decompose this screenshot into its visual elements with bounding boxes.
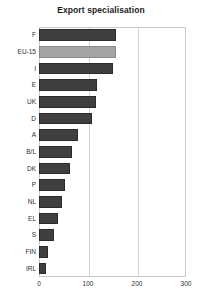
category-label-p: P bbox=[0, 181, 36, 189]
category-axis-labels: FEU-15IEUKDAB/LDKPNLELSFINIRL bbox=[0, 27, 202, 277]
x-tick-label-0: 0 bbox=[24, 280, 54, 288]
value-axis-labels: 0100200300 bbox=[0, 280, 202, 296]
category-label-a: A bbox=[0, 131, 36, 139]
category-label-i: I bbox=[0, 65, 36, 73]
category-label-b-l: B/L bbox=[0, 148, 36, 156]
category-label-s: S bbox=[0, 231, 36, 239]
category-label-d: D bbox=[0, 115, 36, 123]
chart-title: Export specialisation bbox=[0, 5, 202, 15]
category-label-el: EL bbox=[0, 215, 36, 223]
category-label-f: F bbox=[0, 31, 36, 39]
x-tick-label-300: 300 bbox=[171, 280, 201, 288]
category-label-irl: IRL bbox=[0, 265, 36, 273]
category-label-eu-15: EU-15 bbox=[0, 48, 36, 56]
category-label-fin: FIN bbox=[0, 248, 36, 256]
x-tick-label-200: 200 bbox=[122, 280, 152, 288]
x-tick-label-100: 100 bbox=[73, 280, 103, 288]
category-label-dk: DK bbox=[0, 165, 36, 173]
category-label-uk: UK bbox=[0, 98, 36, 106]
category-label-e: E bbox=[0, 81, 36, 89]
export-specialisation-chart: Export specialisation FEU-15IEUKDAB/LDKP… bbox=[0, 0, 202, 308]
category-label-nl: NL bbox=[0, 198, 36, 206]
